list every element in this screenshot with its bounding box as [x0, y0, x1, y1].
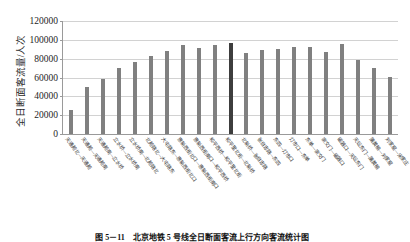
bar-slot	[286, 21, 302, 134]
bar-slot	[270, 21, 286, 134]
y-axis-tick-mark	[60, 134, 63, 135]
bars-group	[63, 21, 398, 134]
bar-slot	[159, 21, 175, 134]
bar[interactable]	[149, 56, 153, 134]
y-axis-tick-label: 20000	[34, 110, 58, 120]
bar[interactable]	[260, 50, 264, 134]
bar-slot	[111, 21, 127, 134]
bar-slot	[191, 21, 207, 134]
bar-slot	[254, 21, 270, 134]
x-axis-tick-label: 立水桥南—北苑路北	[128, 136, 160, 175]
bar-slot	[366, 21, 382, 134]
bar-slot	[63, 21, 79, 134]
bar[interactable]	[372, 68, 376, 134]
x-axis-labels: 天通苑北—天通苑天通苑—天通苑南天通苑南—立水桥立水桥—立水桥南立水桥南—北苑路…	[62, 136, 398, 220]
bar-slot	[223, 21, 239, 134]
bar-slot	[350, 21, 366, 134]
y-axis-tick-label: 80000	[34, 54, 58, 64]
bar[interactable]	[276, 49, 280, 134]
bar-slot	[127, 21, 143, 134]
y-axis-tick-label: 40000	[34, 91, 58, 101]
bar[interactable]	[340, 44, 344, 134]
bar-slot	[302, 21, 318, 134]
bar[interactable]	[85, 87, 89, 134]
bar[interactable]	[308, 47, 312, 134]
bar-slot	[334, 21, 350, 134]
bar[interactable]	[197, 48, 201, 134]
x-axis-tick-label: 和平里北街—北新桥	[224, 136, 256, 175]
bar-slot	[207, 21, 223, 134]
bar[interactable]	[244, 53, 248, 134]
y-axis-tick-label: 0	[53, 129, 58, 139]
bar[interactable]	[388, 77, 392, 134]
bar[interactable]	[181, 45, 185, 134]
x-axis-tick-label: 北苑路北—大屯路东	[144, 136, 176, 175]
bar[interactable]	[165, 51, 169, 134]
bar-slot	[175, 21, 191, 134]
bar[interactable]	[292, 47, 296, 134]
bar-slot	[238, 21, 254, 134]
y-axis-title: 全日断面客流量/人次	[13, 21, 27, 141]
bar-slot	[79, 21, 95, 134]
bar[interactable]	[133, 62, 137, 135]
bar[interactable]	[324, 52, 328, 134]
bar[interactable]	[229, 43, 233, 134]
bar-slot	[95, 21, 111, 134]
bar-slot	[143, 21, 159, 134]
figure-caption: 图 5－11 北京地铁 5 号线全日断面客流上行方向客流统计图	[0, 231, 404, 242]
y-axis-tick-label: 60000	[34, 73, 58, 83]
y-axis-tick-label: 100000	[30, 35, 59, 45]
y-axis-tick-label: 120000	[30, 16, 59, 26]
plot-area: 120000100000800006000040000200000	[62, 21, 398, 135]
bar[interactable]	[213, 45, 217, 134]
bar[interactable]	[356, 60, 360, 134]
bar[interactable]	[117, 68, 121, 134]
bar-slot	[318, 21, 334, 134]
bar[interactable]	[69, 110, 73, 134]
bar[interactable]	[101, 79, 105, 134]
bar-slot	[382, 21, 398, 134]
